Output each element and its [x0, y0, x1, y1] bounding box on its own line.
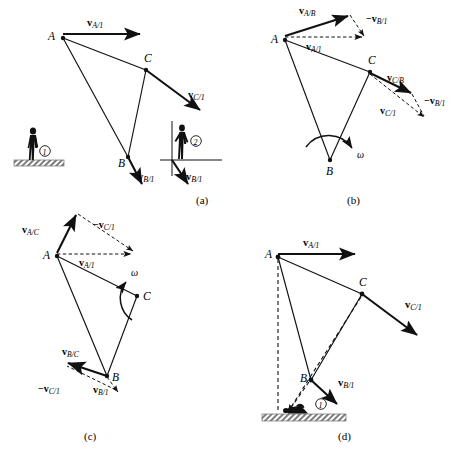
panel-a-label-A: A — [47, 30, 56, 42]
panel-d-label-A: A — [264, 248, 273, 260]
panel-d-point-A — [276, 255, 281, 260]
panel-c-point-C — [135, 294, 139, 298]
panel-c-label-B: B — [112, 371, 119, 383]
panel-b-label-B: B — [326, 165, 333, 177]
panel-c-caption: (c) — [84, 430, 97, 443]
panel-b-label-A: A — [270, 33, 279, 45]
panel-a-caption: (a) — [196, 194, 209, 207]
panel-a-point-A — [61, 36, 65, 40]
panel-d-label-B: B — [300, 372, 307, 384]
figure-root: A C B vA/1 vC/1 vB/1 1 — [0, 0, 462, 465]
vector-diagram-svg: A C B vA/1 vC/1 vB/1 1 — [0, 0, 462, 465]
panel-b-point-A — [283, 38, 287, 42]
panel-d-observer-1-badge-label: 1 — [319, 401, 323, 410]
panel-b-caption: (b) — [347, 194, 360, 207]
panel-a-observer-2-badge-label: 2 — [193, 138, 197, 147]
panel-d-caption: (d) — [338, 430, 351, 443]
panel-b-label-C: C — [368, 54, 376, 66]
panel-c-label-A: A — [42, 249, 51, 261]
panel-d-ground-1 — [262, 414, 346, 421]
panel-b-point-B — [328, 158, 332, 162]
panel-a-label-C: C — [144, 52, 152, 64]
panel-a-label-B: B — [118, 157, 125, 169]
figure-background — [0, 0, 462, 465]
panel-b-omega-label: ω — [357, 149, 364, 160]
panel-c-omega-label: ω — [131, 267, 138, 278]
panel-c-label-C: C — [143, 290, 151, 302]
panel-a-ground-1 — [14, 160, 64, 166]
panel-d-label-C: C — [359, 276, 367, 288]
panel-a-observer-1-badge-label: 1 — [42, 148, 46, 157]
